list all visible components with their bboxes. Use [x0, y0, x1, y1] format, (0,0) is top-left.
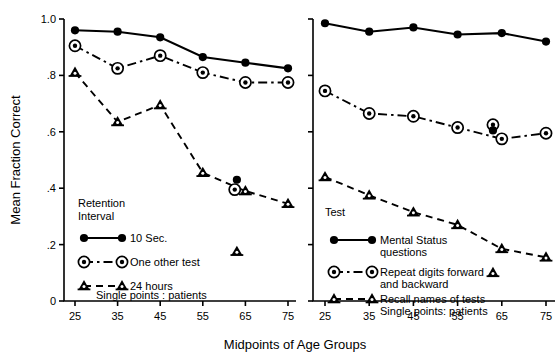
data-point-left-0-0	[71, 26, 79, 34]
data-point-left-0-4	[241, 59, 249, 67]
x-tick-label-left-2: 45	[154, 310, 166, 322]
data-point-left-0-2	[156, 33, 164, 41]
left-legend-entry-2-marker-right-hole	[121, 285, 124, 288]
data-point-left-2-4-hole	[244, 190, 247, 193]
data-point-right-1-5-center	[544, 131, 548, 135]
series-line-left-0	[75, 30, 288, 68]
data-point-left-2-0-hole	[74, 72, 77, 75]
data-point-right-2-2-hole	[412, 211, 415, 214]
left-legend-label-0: 10 Sec.	[130, 232, 167, 244]
series-line-right-1	[325, 91, 546, 139]
left-legend-entry-1-marker-left-center	[82, 260, 86, 264]
data-point-right-1-4-center	[500, 137, 504, 141]
right-legend-label-1-2: and backward	[380, 278, 449, 290]
data-point-right-0-2	[409, 23, 417, 31]
y-tick-label-1: .8	[47, 69, 56, 81]
data-point-right-2-3-hole	[456, 224, 459, 227]
patient-point-left-0	[233, 176, 241, 184]
x-tick-label-left-0: 25	[69, 310, 81, 322]
left-legend-entry-1-marker-right-center	[120, 260, 124, 264]
right-legend-entry-1-marker-right-center	[370, 270, 374, 274]
data-point-left-2-3-hole	[201, 172, 204, 175]
patient-point-left-1-center	[233, 187, 237, 191]
x-tick-label-right-4: 65	[496, 310, 508, 322]
y-tick-label-4: .2	[47, 239, 56, 251]
left-legend-note: Single points : patients	[96, 289, 207, 301]
right-legend-label-0-2: questions	[380, 246, 428, 258]
data-point-left-1-2-center	[158, 53, 162, 57]
series-line-left-2	[75, 73, 288, 204]
patient-point-right-1	[489, 126, 497, 134]
data-point-left-1-4-center	[243, 80, 247, 84]
y-tick-label-2: .6	[47, 126, 56, 138]
data-point-right-1-2-center	[411, 114, 415, 118]
y-tick-label-3: .4	[47, 182, 56, 194]
x-tick-label-left-5: 75	[282, 310, 294, 322]
data-point-right-2-4-hole	[500, 248, 503, 251]
data-point-left-2-2-hole	[159, 104, 162, 107]
x-tick-label-right-5: 75	[540, 310, 552, 322]
right-legend-entry-1-marker-left-center	[332, 270, 336, 274]
y-axis-title: Mean Fraction Correct	[8, 95, 23, 225]
series-line-right-0	[325, 23, 546, 41]
right-legend-entry-2-marker-right-hole	[371, 298, 374, 301]
right-legend-label-1-1: Repeat digits forward	[380, 266, 484, 278]
data-point-right-2-5-hole	[545, 256, 548, 259]
data-point-right-0-5	[542, 37, 550, 45]
data-point-right-0-0	[321, 19, 329, 27]
data-point-right-1-1-center	[367, 111, 371, 115]
data-point-left-2-5-hole	[287, 203, 290, 206]
x-axis-title: Midpoints of Age Groups	[224, 337, 367, 352]
y-tick-label-5: 0	[50, 295, 56, 307]
data-point-left-1-3-center	[201, 70, 205, 74]
x-tick-label-left-1: 35	[111, 310, 123, 322]
figure-canvas: 1.0.8.6.4.20253545556575253545556575Mean…	[0, 0, 559, 356]
right-legend-entry-0-marker-right	[368, 236, 376, 244]
right-legend-label-0-1: Mental Status	[380, 234, 448, 246]
data-point-left-1-0-center	[73, 44, 77, 48]
data-point-left-0-3	[199, 53, 207, 61]
data-point-right-0-3	[454, 30, 462, 38]
axis-line-right	[313, 19, 555, 301]
data-point-right-1-0-center	[323, 89, 327, 93]
right-legend-title: Test	[325, 206, 345, 218]
data-point-left-2-1-hole	[116, 121, 119, 124]
right-legend-label-2-2: Single points: patients	[380, 305, 488, 317]
y-tick-label-0: 1.0	[41, 13, 56, 25]
x-tick-label-right-0: 25	[319, 310, 331, 322]
data-point-right-0-4	[498, 29, 506, 37]
chart-svg: 1.0.8.6.4.20253545556575253545556575Mean…	[0, 0, 559, 356]
data-point-left-0-1	[114, 28, 122, 36]
data-point-right-0-1	[365, 28, 373, 36]
x-tick-label-right-1: 35	[363, 310, 375, 322]
left-legend-entry-0-marker-right	[118, 234, 126, 242]
data-point-left-1-1-center	[115, 66, 119, 70]
left-legend-entry-2-marker-left-hole	[83, 285, 86, 288]
right-legend-label-2-1: Recall names of tests	[380, 293, 486, 305]
patient-point-left-2-hole	[235, 251, 238, 254]
data-point-left-1-5-center	[286, 80, 290, 84]
left-legend-title-1: Retention	[78, 197, 125, 209]
x-tick-label-left-3: 55	[197, 310, 209, 322]
data-point-left-0-5	[284, 64, 292, 72]
right-legend-entry-0-marker-left	[330, 236, 338, 244]
x-tick-label-left-4: 65	[239, 310, 251, 322]
data-point-right-2-1-hole	[368, 194, 371, 197]
left-legend-title-2: Interval	[78, 210, 114, 222]
right-legend-entry-2-marker-left-hole	[333, 298, 336, 301]
patient-point-right-2-hole	[491, 272, 494, 275]
data-point-right-2-0-hole	[324, 176, 327, 179]
left-legend-label-1: One other test	[130, 256, 200, 268]
data-point-right-1-3-center	[455, 125, 459, 129]
left-legend-entry-0-marker-left	[80, 234, 88, 242]
